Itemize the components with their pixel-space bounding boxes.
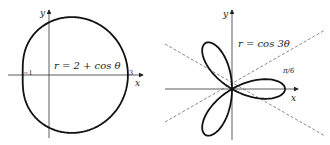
- left-x-label: x: [135, 78, 140, 88]
- left-y-label: y: [39, 8, 46, 18]
- right-y-label: y: [222, 9, 229, 19]
- left-equation: r = 2 + cos θ: [54, 60, 121, 71]
- left-panel: y x −1 3 r = 2 + cos θ: [8, 8, 143, 138]
- tick-neg1: −1: [23, 69, 33, 77]
- tick-3: 3: [129, 69, 133, 77]
- right-equation: r = cos 3θ: [238, 38, 290, 49]
- right-panel: y x π/6 r = cos 3θ: [165, 9, 325, 140]
- right-x-label: x: [291, 93, 296, 103]
- angle-label: π/6: [282, 67, 295, 75]
- figure: y x −1 3 r = 2 + cos θ y x π/6 r = cos 3…: [0, 0, 330, 145]
- guide-line-negative: [165, 44, 325, 136]
